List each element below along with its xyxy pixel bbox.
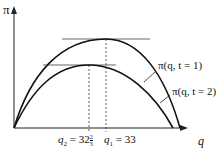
y-axis-label: π bbox=[3, 3, 10, 16]
q1-label: q1 = 33 bbox=[104, 134, 136, 148]
q2-label: q2 = 3223 bbox=[58, 134, 93, 148]
x-axis-arrow-icon bbox=[180, 125, 188, 131]
y-axis-arrow-icon bbox=[11, 6, 17, 14]
x-axis-label: q bbox=[198, 135, 204, 147]
leader-line-t1 bbox=[144, 72, 155, 82]
curve-label-t1: π(q, t = 1) bbox=[158, 60, 202, 71]
leader-line-t2 bbox=[160, 95, 170, 103]
curve-label-t2: π(q, t = 2) bbox=[172, 86, 216, 97]
profit-diagram bbox=[0, 0, 224, 150]
profit-curve-t2 bbox=[14, 65, 173, 128]
profit-curve-t1 bbox=[14, 39, 180, 128]
